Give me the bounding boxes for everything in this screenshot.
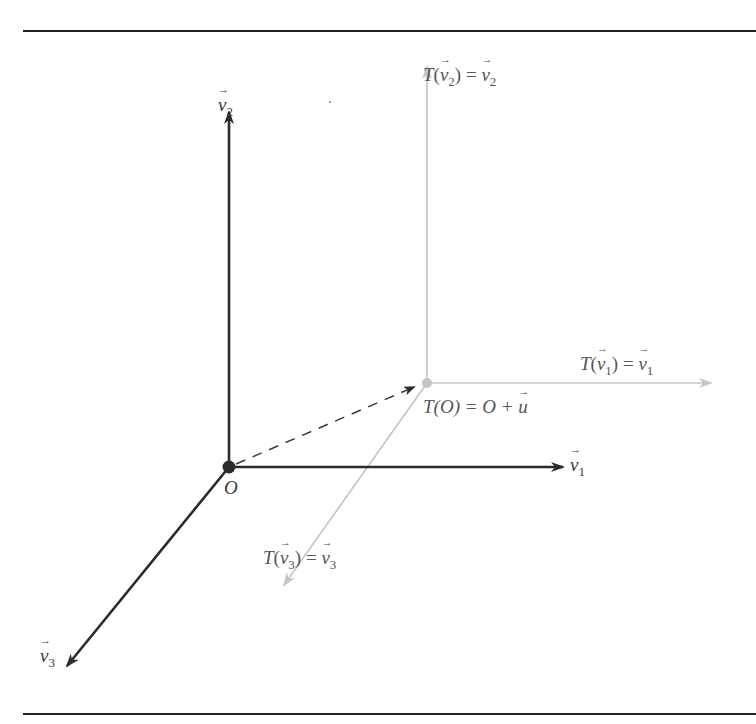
equals: = — [301, 547, 321, 568]
subscript: 1 — [647, 363, 654, 378]
translation-vector-u — [236, 387, 414, 464]
T-symbol: T — [423, 396, 434, 417]
v-letter: v — [280, 548, 288, 567]
v1-letter: v — [570, 455, 578, 474]
v-letter: v — [440, 65, 448, 84]
translated-v3-label: T(v3) = v3 — [263, 548, 336, 571]
subscript: 3 — [288, 557, 295, 572]
v3-label: v3 — [40, 646, 55, 669]
subscript: 2 — [448, 74, 455, 89]
v-letter: v — [638, 354, 646, 373]
origin-label: O — [224, 478, 238, 497]
u-vector: u — [518, 397, 528, 416]
v-letter: v — [321, 548, 329, 567]
translated-origin-label: T(O) = O + u — [423, 397, 528, 416]
v3-subscript: 3 — [48, 655, 55, 670]
stray-dot — [329, 101, 331, 103]
origin-letter: O — [224, 477, 238, 498]
v1-subscript: 1 — [578, 464, 585, 479]
v2-letter: v — [218, 95, 226, 114]
origin-point — [223, 461, 236, 474]
v1-label: v1 — [570, 455, 585, 478]
subscript: 3 — [330, 557, 337, 572]
v3-letter: v — [40, 646, 48, 665]
subscript: 1 — [605, 363, 612, 378]
T-symbol: T — [423, 64, 434, 85]
origin-expression: (O) = O + — [434, 396, 519, 417]
v2-subscript: 2 — [226, 104, 233, 119]
v3-axis — [67, 467, 229, 666]
equals: = — [618, 353, 638, 374]
T-symbol: T — [580, 353, 591, 374]
equals: = — [461, 64, 481, 85]
translated-v2-label: T(v2) = v2 — [423, 65, 496, 88]
translated-v1-label: T(v1) = v1 — [580, 354, 653, 377]
v-letter: v — [597, 354, 605, 373]
subscript: 2 — [490, 74, 497, 89]
v2-label: v2 — [218, 95, 233, 118]
translated-origin-point — [422, 378, 432, 388]
T-symbol: T — [263, 547, 274, 568]
v-letter: v — [481, 65, 489, 84]
